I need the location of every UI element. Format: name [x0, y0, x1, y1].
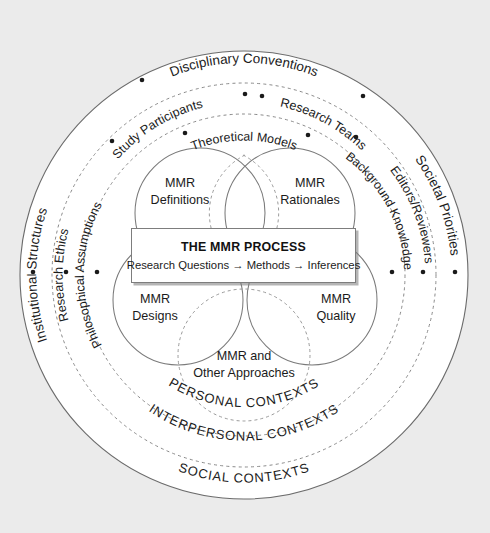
venn-other-line2: Other Approaches: [193, 366, 295, 380]
venn-rationales-line1: MMR: [295, 176, 325, 190]
venn-quality-line2: Quality: [316, 309, 356, 323]
mmr-process-subtitle: Research Questions → Methods → Inference…: [127, 259, 361, 271]
venn-quality-line1: MMR: [321, 292, 351, 306]
mmr-process-title: THE MMR PROCESS: [181, 240, 306, 254]
mmr-process-box: THE MMR PROCESS Research Questions → Met…: [131, 228, 356, 283]
venn-rationales-line2: Rationales: [280, 193, 340, 207]
venn-designs-line2: Designs: [132, 309, 178, 323]
venn-other-line1: MMR and: [217, 349, 272, 363]
venn-definitions-line2: Definitions: [151, 193, 210, 207]
diagram-canvas: Disciplinary Conventions Study Participa…: [0, 0, 490, 533]
venn-definitions-line1: MMR: [165, 176, 195, 190]
venn-designs-line1: MMR: [140, 292, 170, 306]
